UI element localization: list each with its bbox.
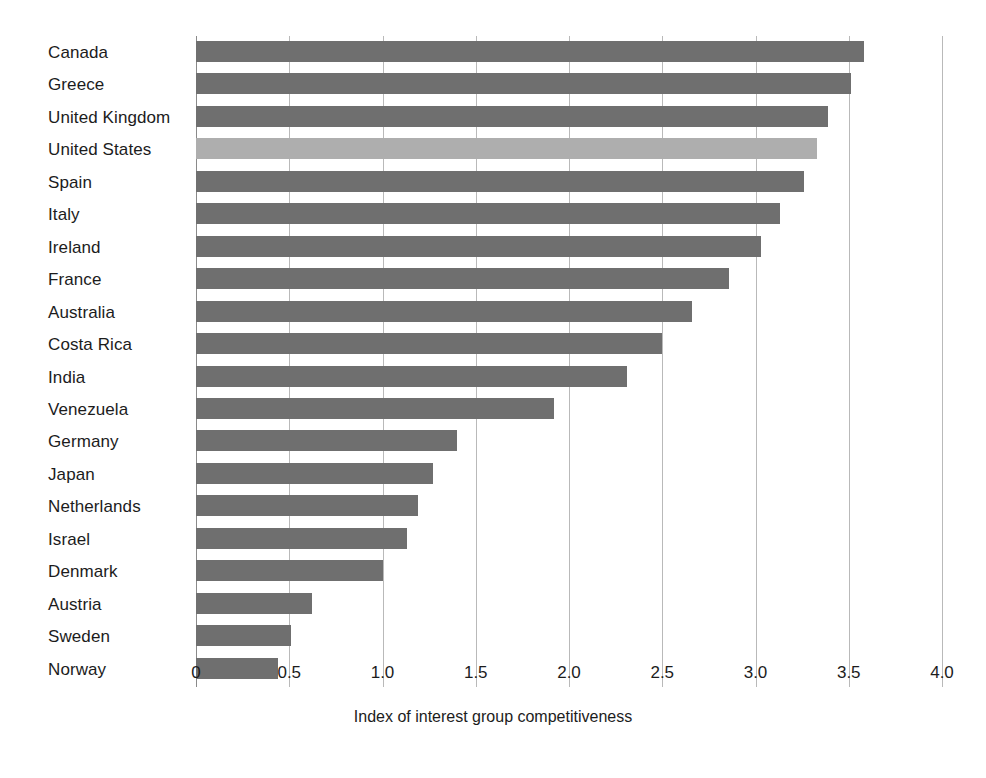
x-tick-label-3.0: 3.0 [744, 664, 768, 681]
bar-row [196, 231, 942, 263]
bar-row [196, 101, 942, 133]
bar-row [196, 328, 942, 360]
x-tick-label-3.5: 3.5 [837, 664, 861, 681]
bar-united-states [196, 138, 817, 159]
bar-india [196, 366, 627, 387]
bar-canada [196, 41, 864, 62]
bar-row [196, 36, 942, 68]
gridline-4.0 [942, 36, 943, 687]
category-label-japan: Japan [48, 466, 188, 483]
bar-denmark [196, 560, 383, 581]
bar-row [196, 523, 942, 555]
bar-row [196, 198, 942, 230]
bar-sweden [196, 625, 291, 646]
bar-row [196, 68, 942, 100]
plot-area [196, 36, 942, 687]
bar-japan [196, 463, 433, 484]
category-label-israel: Israel [48, 531, 188, 548]
bar-germany [196, 430, 457, 451]
bar-ireland [196, 236, 761, 257]
chart-figure: Index of interest group competitiveness … [0, 0, 986, 778]
category-label-austria: Austria [48, 596, 188, 613]
bar-row [196, 490, 942, 522]
category-label-norway: Norway [48, 661, 188, 678]
x-tick-label-1.5: 1.5 [464, 664, 488, 681]
x-tick-label-1.0: 1.0 [371, 664, 395, 681]
bar-norway [196, 658, 278, 679]
category-label-italy: Italy [48, 206, 188, 223]
bar-greece [196, 73, 851, 94]
category-label-united-kingdom: United Kingdom [48, 109, 188, 126]
bar-row [196, 620, 942, 652]
bar-israel [196, 528, 407, 549]
bar-austria [196, 593, 312, 614]
x-tick-label-2.5: 2.5 [650, 664, 674, 681]
bar-australia [196, 301, 692, 322]
category-label-greece: Greece [48, 76, 188, 93]
bar-row [196, 458, 942, 490]
category-label-sweden: Sweden [48, 628, 188, 645]
x-axis-title: Index of interest group competitiveness [0, 708, 986, 726]
category-label-spain: Spain [48, 174, 188, 191]
x-tick-label-2.0: 2.0 [557, 664, 581, 681]
bar-row [196, 425, 942, 457]
bar-spain [196, 171, 804, 192]
x-tick-label-0.5: 0.5 [277, 664, 301, 681]
category-label-germany: Germany [48, 433, 188, 450]
bar-row [196, 166, 942, 198]
bar-row [196, 588, 942, 620]
category-label-france: France [48, 271, 188, 288]
category-label-venezuela: Venezuela [48, 401, 188, 418]
x-tick-label-4.0: 4.0 [930, 664, 954, 681]
category-label-united-states: United States [48, 141, 188, 158]
x-tick-label-0: 0 [191, 664, 200, 681]
bar-row [196, 393, 942, 425]
bar-row [196, 555, 942, 587]
bar-france [196, 268, 729, 289]
category-label-denmark: Denmark [48, 563, 188, 580]
bar-venezuela [196, 398, 554, 419]
bar-costa-rica [196, 333, 662, 354]
category-label-australia: Australia [48, 304, 188, 321]
bar-netherlands [196, 495, 418, 516]
category-label-ireland: Ireland [48, 239, 188, 256]
category-label-india: India [48, 369, 188, 386]
bar-row [196, 133, 942, 165]
category-label-netherlands: Netherlands [48, 498, 188, 515]
category-label-costa-rica: Costa Rica [48, 336, 188, 353]
bar-row [196, 361, 942, 393]
bar-row [196, 263, 942, 295]
category-label-canada: Canada [48, 44, 188, 61]
bar-row [196, 296, 942, 328]
bar-italy [196, 203, 780, 224]
bar-united-kingdom [196, 106, 828, 127]
